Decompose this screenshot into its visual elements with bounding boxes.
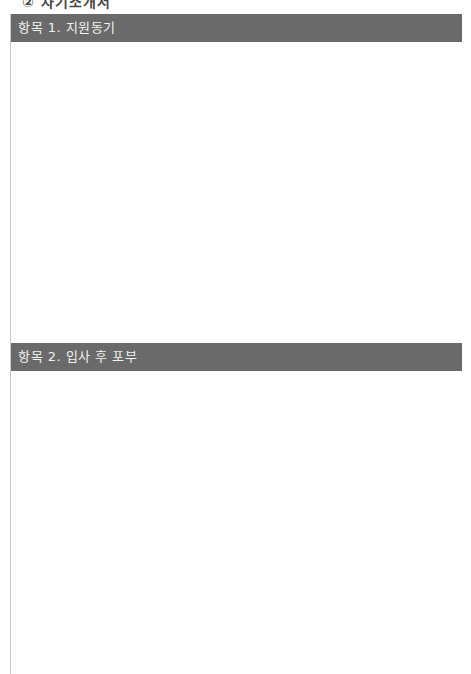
section-2-answer-area[interactable] xyxy=(12,371,461,674)
section-1-header: 항목 1. 지원동기 xyxy=(11,14,462,42)
section-2-header: 항목 2. 입사 후 포부 xyxy=(11,343,462,371)
self-introduction-form: 항목 1. 지원동기 항목 2. 입사 후 포부 xyxy=(10,14,461,674)
page-heading-clipped: ② 자기소개서 xyxy=(22,0,111,11)
section-1-answer-area[interactable] xyxy=(12,42,461,343)
